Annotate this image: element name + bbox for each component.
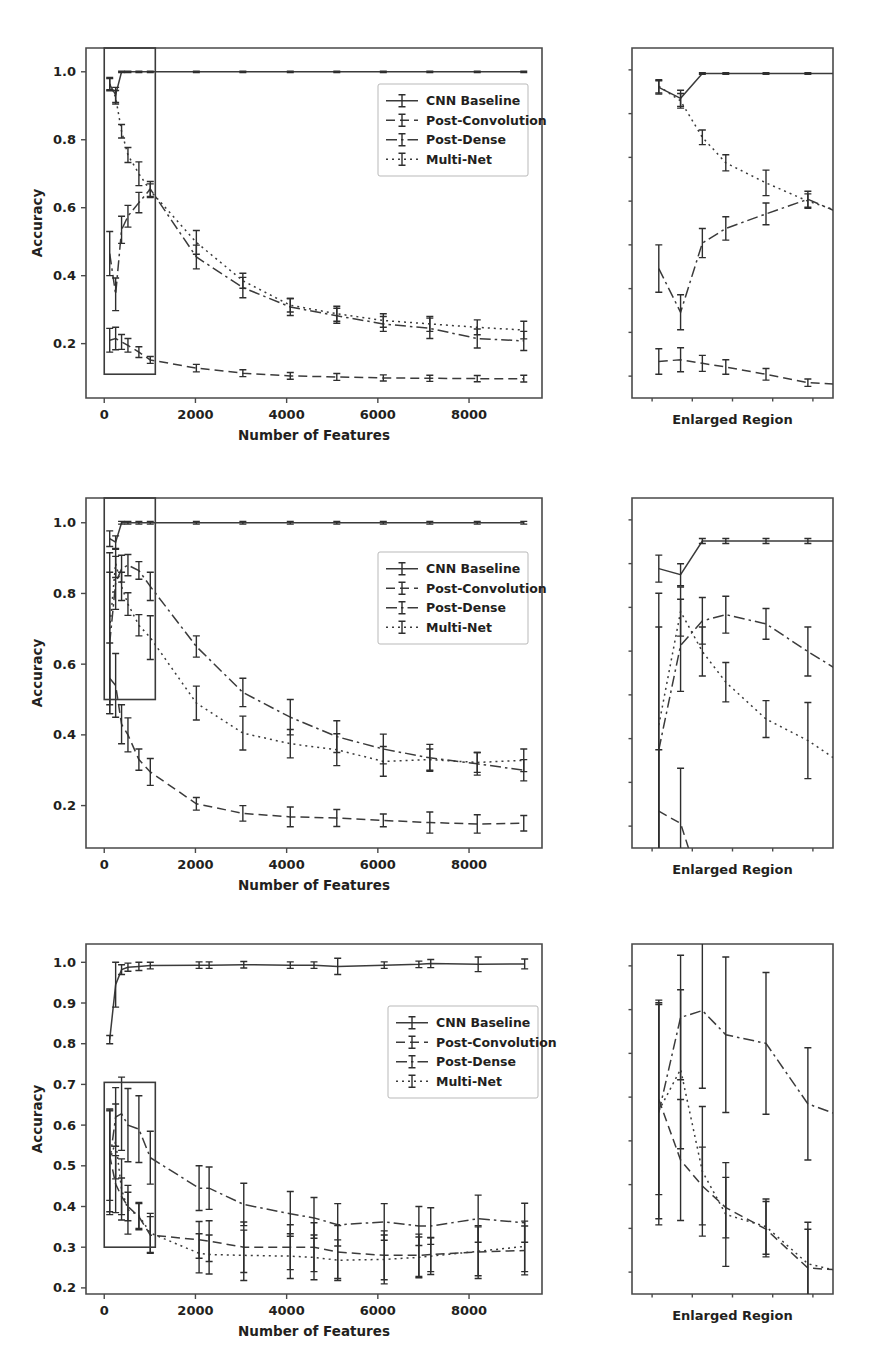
x-tick-label: 4000 <box>269 857 305 872</box>
error-bar <box>135 162 142 186</box>
x-tick-label: 4000 <box>269 407 305 422</box>
error-bar <box>804 702 811 778</box>
enlarged-plot-frame <box>632 498 833 848</box>
error-bar <box>804 1048 811 1160</box>
error-bar <box>118 965 125 975</box>
legend-label: Post-Convolution <box>426 113 547 128</box>
error-bar <box>380 71 387 72</box>
series-line <box>110 339 524 379</box>
error-bar <box>106 1036 113 1044</box>
error-bar <box>474 71 481 72</box>
error-bar <box>763 973 770 1115</box>
error-bar <box>135 562 142 580</box>
error-bar <box>239 716 246 750</box>
error-bar <box>118 334 125 349</box>
error-bar <box>474 320 481 335</box>
error-bar <box>118 71 125 72</box>
legend-label: Post-Convolution <box>426 581 547 596</box>
legend-label: Post-Dense <box>426 600 506 615</box>
enlarged-series-multi-net <box>655 80 891 351</box>
x-tick-label: 2000 <box>177 1303 213 1318</box>
error-bar <box>699 130 706 145</box>
error-bar <box>520 71 527 72</box>
y-tick-label: 0.4 <box>53 268 76 283</box>
error-bar <box>763 203 770 225</box>
error-bar <box>193 71 200 72</box>
x-tick-label: 6000 <box>360 407 396 422</box>
figure-container: 0.20.40.60.81.002000400060008000Number o… <box>0 0 891 1364</box>
series-cnn-baseline <box>106 521 527 548</box>
error-bar <box>135 749 142 770</box>
enlarged-region-label: Enlarged Region <box>672 862 793 877</box>
y-tick-label: 0.2 <box>53 336 76 351</box>
y-tick-label: 1.0 <box>53 515 76 530</box>
legend-label: CNN Baseline <box>426 561 520 576</box>
error-bar <box>118 1159 125 1220</box>
enlarged-plot-frame <box>632 48 833 398</box>
error-bar <box>380 747 387 777</box>
error-bar <box>193 797 200 810</box>
error-bar <box>147 71 154 72</box>
x-tick-label: 0 <box>100 1303 109 1318</box>
error-bar <box>147 759 154 786</box>
error-bar <box>106 531 113 547</box>
error-bar <box>124 593 131 616</box>
y-tick-label: 0.7 <box>53 1077 76 1092</box>
error-bar <box>763 1199 770 1254</box>
series-line <box>659 74 891 99</box>
error-bar <box>287 71 294 72</box>
error-bar <box>239 273 246 288</box>
error-bar <box>520 375 527 382</box>
x-tick-label: 8000 <box>451 857 487 872</box>
error-bar <box>135 615 142 636</box>
y-tick-label: 0.8 <box>53 586 76 601</box>
error-bar <box>112 962 119 1007</box>
error-bar <box>722 155 729 171</box>
series-line <box>659 360 891 403</box>
y-tick-label: 0.3 <box>53 1240 76 1255</box>
y-tick-label: 0.8 <box>53 1036 76 1051</box>
error-bar <box>239 678 246 706</box>
error-bar <box>427 1238 434 1275</box>
error-bar <box>699 627 706 676</box>
legend-label: Multi-Net <box>426 620 492 635</box>
error-bar <box>147 572 154 600</box>
inset-highlight-rect <box>104 1082 155 1247</box>
x-tick-label: 2000 <box>177 857 213 872</box>
series-line <box>659 199 891 362</box>
x-tick-label: 4000 <box>269 1303 305 1318</box>
error-bar <box>147 1131 154 1184</box>
error-bar <box>655 245 662 292</box>
error-bar <box>124 339 131 353</box>
chart-panel-2: 0.20.40.60.81.002000400060008000Number o… <box>0 472 891 912</box>
error-bar <box>521 1221 528 1271</box>
inset-highlight-rect <box>104 48 155 374</box>
error-bar <box>333 71 340 72</box>
error-bar <box>124 1088 131 1161</box>
error-bar <box>147 616 154 660</box>
enlarged-series-multi-net <box>655 990 891 1322</box>
enlarged-series-post-convolution <box>655 348 891 403</box>
series-line <box>659 1100 891 1312</box>
error-bar <box>193 636 200 657</box>
series-line <box>659 86 891 350</box>
y-tick-label: 0.5 <box>53 1158 76 1173</box>
enlarged-region-label: Enlarged Region <box>672 412 793 427</box>
y-tick-label: 0.8 <box>53 132 76 147</box>
enlarged-series-group <box>655 73 891 403</box>
chart-panel-1: 0.20.40.60.81.002000400060008000Number o… <box>0 22 891 462</box>
x-tick-label: 2000 <box>177 407 213 422</box>
error-bar <box>239 71 246 72</box>
chart-svg-1: 0.20.40.60.81.002000400060008000Number o… <box>0 22 891 462</box>
series-post-convolution <box>106 643 527 833</box>
series-line <box>110 189 524 341</box>
y-tick-label: 0.2 <box>53 798 76 813</box>
error-bar <box>381 1235 388 1284</box>
error-bar <box>112 549 119 577</box>
series-line <box>110 1114 525 1226</box>
error-bar <box>520 321 527 339</box>
error-bar <box>333 734 340 766</box>
error-bar <box>135 1202 142 1228</box>
error-bar <box>135 347 142 358</box>
legend-label: Multi-Net <box>436 1074 502 1089</box>
